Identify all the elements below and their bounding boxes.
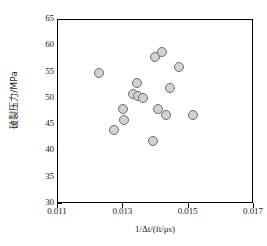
y-axis-tick-label: 35	[24, 172, 54, 181]
data-point	[119, 115, 129, 125]
data-point	[188, 110, 198, 120]
data-point	[174, 62, 184, 72]
data-point	[132, 78, 142, 88]
y-axis-tick-label: 50	[24, 93, 54, 102]
y-axis-tick-label: 45	[24, 119, 54, 128]
data-points-layer	[58, 20, 252, 202]
data-point	[138, 93, 148, 103]
data-point	[148, 136, 158, 146]
x-axis-tick-label: 0.013	[99, 207, 145, 216]
data-point	[157, 47, 167, 57]
data-point	[109, 125, 119, 135]
x-axis-tick-label: 0.011	[34, 207, 80, 216]
data-point	[161, 110, 171, 120]
data-point	[165, 83, 175, 93]
x-axis-tick-label: 0.017	[230, 207, 267, 216]
y-axis-tick-label: 40	[24, 145, 54, 154]
y-axis-title: 破裂压力/MPa	[9, 40, 19, 160]
x-axis-title: 1/Δt/(ft/μs)	[57, 224, 253, 234]
data-point	[118, 104, 128, 114]
scatter-chart-figure: 破裂压力/MPa 1/Δt/(ft/μs) 30354045505560650.…	[0, 0, 267, 246]
plot-area	[57, 19, 253, 203]
y-axis-tick-label: 55	[24, 67, 54, 76]
y-axis-tick-label: 65	[24, 14, 54, 23]
data-point	[94, 68, 104, 78]
y-axis-tick-label: 60	[24, 40, 54, 49]
x-axis-tick-label: 0.015	[165, 207, 211, 216]
